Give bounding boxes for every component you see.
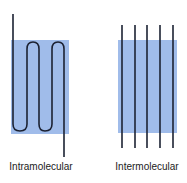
diagram-canvas	[0, 0, 187, 183]
intramolecular-box	[11, 40, 69, 134]
intermolecular-panel	[118, 25, 177, 148]
intermolecular-label: Intermolecular	[112, 161, 182, 172]
intramolecular-panel	[11, 14, 69, 157]
intramolecular-label: Intramolecular	[6, 161, 76, 172]
